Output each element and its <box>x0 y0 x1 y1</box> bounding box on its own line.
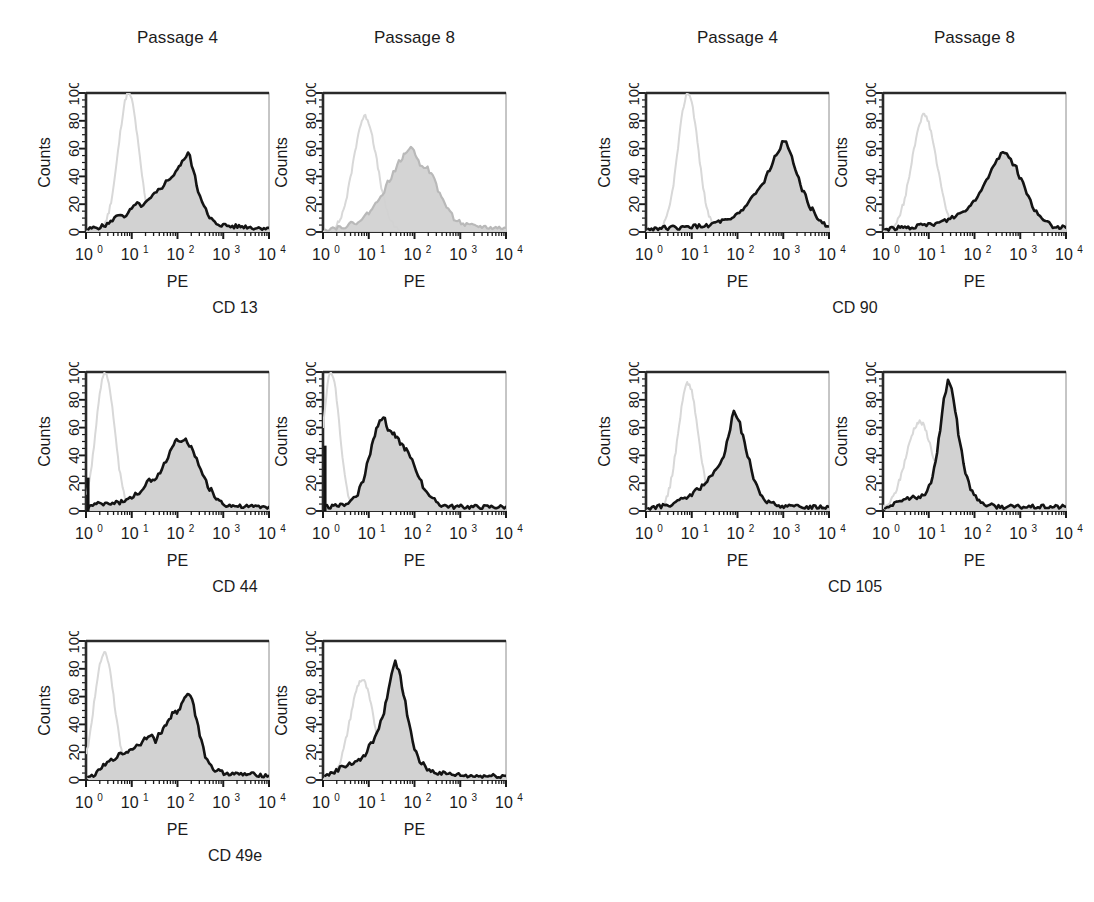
x-tick-exponent: 0 <box>657 523 663 534</box>
x-tick-mantissa: 10 <box>75 525 93 542</box>
x-tick-exponent: 1 <box>380 244 386 255</box>
histogram-panel-cd-90-passage-4: 020406080100Counts100101102103104PE <box>584 83 853 298</box>
x-tick-mantissa: 10 <box>681 525 699 542</box>
y-tick-label: 100 <box>625 362 642 385</box>
x-tick-exponent: 2 <box>426 244 432 255</box>
histogram-panel-cd-44-passage-8: 020406080100Counts100101102103104PE <box>261 362 530 577</box>
x-axis-title: PE <box>727 552 748 569</box>
x-tick-mantissa: 10 <box>404 794 422 811</box>
x-tick-mantissa: 10 <box>872 246 890 263</box>
x-tick-exponent: 1 <box>940 523 946 534</box>
x-tick-mantissa: 10 <box>358 246 376 263</box>
histogram-panel-cd-105-passage-4: 020406080100Counts100101102103104PE <box>584 362 853 577</box>
x-tick-exponent: 1 <box>380 523 386 534</box>
x-axis-title: PE <box>964 552 985 569</box>
x-tick-exponent: 3 <box>234 792 240 803</box>
x-tick-mantissa: 10 <box>312 525 330 542</box>
x-tick-exponent: 3 <box>1031 523 1037 534</box>
column-header-passage-4: Passage 8 <box>833 28 1094 48</box>
x-tick-exponent: 3 <box>794 523 800 534</box>
x-tick-mantissa: 10 <box>495 525 513 542</box>
x-tick-exponent: 4 <box>517 523 523 534</box>
x-tick-exponent: 1 <box>143 523 149 534</box>
histogram-panel-cd-49e-passage-4: 020406080100Counts100101102103104PE <box>24 631 293 846</box>
x-axis-title: PE <box>727 273 748 290</box>
x-tick-mantissa: 10 <box>727 525 745 542</box>
histogram-panel-cd-44-passage-4: 020406080100Counts100101102103104PE <box>24 362 293 577</box>
x-tick-mantissa: 10 <box>1009 525 1027 542</box>
y-tick-label: 100 <box>65 631 82 654</box>
x-tick-mantissa: 10 <box>121 525 139 542</box>
x-tick-exponent: 1 <box>703 523 709 534</box>
column-header-passage-2: Passage 8 <box>273 28 556 48</box>
x-tick-mantissa: 10 <box>1009 246 1027 263</box>
x-tick-exponent: 1 <box>143 792 149 803</box>
x-tick-exponent: 2 <box>189 244 195 255</box>
x-tick-mantissa: 10 <box>75 246 93 263</box>
marker-label-cd-49e: CD 49e <box>145 846 325 865</box>
x-tick-mantissa: 10 <box>404 246 422 263</box>
histogram-panel-cd-49e-passage-8: 020406080100Counts100101102103104PE <box>261 631 530 846</box>
x-tick-exponent: 4 <box>1077 244 1083 255</box>
x-tick-mantissa: 10 <box>681 246 699 263</box>
y-axis-title: Counts <box>273 416 290 467</box>
x-tick-mantissa: 10 <box>918 246 936 263</box>
x-tick-exponent: 0 <box>334 523 340 534</box>
x-tick-exponent: 0 <box>894 244 900 255</box>
x-tick-exponent: 3 <box>1031 244 1037 255</box>
x-tick-mantissa: 10 <box>121 794 139 811</box>
x-tick-mantissa: 10 <box>495 794 513 811</box>
x-tick-exponent: 0 <box>97 792 103 803</box>
x-axis-title: PE <box>167 552 188 569</box>
y-tick-label: 100 <box>302 362 319 385</box>
x-tick-exponent: 4 <box>517 792 523 803</box>
x-tick-exponent: 0 <box>97 244 103 255</box>
x-tick-exponent: 1 <box>380 792 386 803</box>
x-tick-mantissa: 10 <box>1055 525 1073 542</box>
x-tick-exponent: 2 <box>189 523 195 534</box>
y-tick-label: 100 <box>65 83 82 106</box>
histogram-panel-cd-13-passage-8: 020406080100Counts100101102103104PE <box>261 83 530 298</box>
x-axis-title: PE <box>964 273 985 290</box>
x-tick-exponent: 0 <box>894 523 900 534</box>
x-tick-mantissa: 10 <box>312 794 330 811</box>
x-tick-exponent: 2 <box>426 792 432 803</box>
y-axis-title: Counts <box>36 137 53 188</box>
flow-cytometry-figure: Passage 4Passage 8Passage 4Passage 80204… <box>0 0 1094 902</box>
x-tick-mantissa: 10 <box>404 525 422 542</box>
x-axis-title: PE <box>167 821 188 838</box>
y-axis-title: Counts <box>833 137 850 188</box>
x-tick-exponent: 4 <box>1077 523 1083 534</box>
x-tick-mantissa: 10 <box>449 525 467 542</box>
y-axis-title: Counts <box>36 685 53 736</box>
histogram-panel-cd-13-passage-4: 020406080100Counts100101102103104PE <box>24 83 293 298</box>
y-axis-title: Counts <box>596 416 613 467</box>
marker-label-cd-90: CD 90 <box>765 298 945 317</box>
y-axis-title: Counts <box>273 137 290 188</box>
y-tick-label: 100 <box>862 362 879 385</box>
y-tick-label: 100 <box>625 83 642 106</box>
x-tick-mantissa: 10 <box>635 246 653 263</box>
x-tick-mantissa: 10 <box>358 794 376 811</box>
x-tick-exponent: 3 <box>471 792 477 803</box>
x-tick-exponent: 3 <box>471 523 477 534</box>
histogram-panel-cd-105-passage-8: 020406080100Counts100101102103104PE <box>821 362 1090 577</box>
x-tick-exponent: 0 <box>657 244 663 255</box>
y-axis-title: Counts <box>36 416 53 467</box>
x-tick-exponent: 0 <box>97 523 103 534</box>
y-tick-label: 100 <box>302 83 319 106</box>
y-axis-title: Counts <box>596 137 613 188</box>
x-tick-mantissa: 10 <box>449 794 467 811</box>
x-tick-mantissa: 10 <box>495 246 513 263</box>
x-tick-mantissa: 10 <box>167 525 185 542</box>
x-tick-exponent: 4 <box>517 244 523 255</box>
x-axis-title: PE <box>404 821 425 838</box>
y-tick-label: 100 <box>302 631 319 654</box>
x-tick-mantissa: 10 <box>212 246 230 263</box>
y-tick-label: 100 <box>65 362 82 385</box>
x-tick-mantissa: 10 <box>727 246 745 263</box>
x-tick-exponent: 1 <box>143 244 149 255</box>
x-tick-exponent: 2 <box>986 244 992 255</box>
x-tick-mantissa: 10 <box>358 525 376 542</box>
x-tick-exponent: 2 <box>749 244 755 255</box>
